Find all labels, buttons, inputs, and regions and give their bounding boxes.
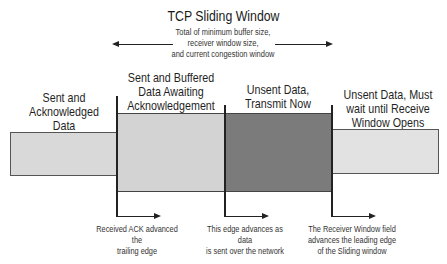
note-line: trailing edge: [92, 246, 182, 257]
note-send-edge: This edge advances as data is sent over …: [200, 224, 290, 257]
note-line: is sent over the network: [200, 246, 290, 257]
leading-arrowhead-icon: [369, 213, 376, 219]
trailing-arrowhead-icon: [154, 213, 161, 219]
send-edge-advance-arrow: [225, 216, 263, 217]
block-transmit-now: [225, 113, 332, 192]
right-span-arrow: [275, 44, 327, 45]
block-must-wait: [332, 129, 439, 174]
label-line: Unsent Data, Must: [339, 88, 438, 102]
send-arrowhead-icon: [262, 213, 269, 219]
label-line: Acknowledged: [15, 105, 114, 119]
right-arrowhead-icon: [326, 41, 333, 47]
label-line: Window Opens: [339, 116, 438, 130]
subtitle-line: Total of minimum buffer size,: [133, 27, 313, 38]
diagram-title: TCP Sliding Window: [27, 8, 420, 24]
note-line: of the Sliding window: [307, 246, 397, 257]
note-line: advances the leading edge: [307, 235, 397, 246]
note-line: This edge advances as data: [200, 224, 290, 246]
trailing-edge-line: [116, 96, 118, 217]
label-line: Data: [15, 119, 114, 133]
label-sent-acknowledged: Sent and Acknowledged Data: [15, 91, 114, 133]
note-line: The Receiver Window field: [307, 224, 397, 235]
label-sent-buffered: Sent and Buffered Data Awaiting Acknowle…: [117, 71, 224, 113]
note-trailing-edge: Received ACK advanced the trailing edge: [92, 224, 182, 257]
block-sent-acknowledged: [10, 132, 117, 176]
label-must-wait: Unsent Data, Must wait until Receive Win…: [339, 88, 438, 130]
note-line: Received ACK advanced the: [92, 224, 182, 246]
note-leading-edge: The Receiver Window field advances the l…: [307, 224, 397, 257]
leading-edge-advance-arrow: [332, 216, 370, 217]
label-line: Transmit Now: [229, 97, 328, 111]
label-line: wait until Receive: [339, 102, 438, 116]
subtitle-line: and current congestion window: [133, 49, 313, 60]
left-span-arrow: [118, 44, 173, 45]
label-transmit-now: Unsent Data, Transmit Now: [229, 83, 328, 111]
label-line: Acknowledgement: [117, 99, 224, 113]
block-sent-buffered: [117, 113, 225, 192]
label-line: Unsent Data,: [229, 83, 328, 97]
label-line: Sent and Buffered: [117, 71, 224, 85]
label-line: Data Awaiting: [117, 85, 224, 99]
label-line: Sent and: [15, 91, 114, 105]
trailing-edge-advance-arrow: [117, 216, 155, 217]
leading-edge-line: [331, 105, 333, 217]
send-edge-line: [224, 105, 226, 217]
